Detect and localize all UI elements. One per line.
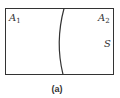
figure-caption: (a)	[52, 84, 63, 94]
region-label-a1: A1	[8, 12, 21, 25]
region-label-a2: A2	[97, 12, 110, 25]
universal-set-label: S	[104, 38, 111, 49]
partition-curve	[59, 9, 64, 75]
partition-diagram: A1 A2 S (a)	[0, 0, 120, 98]
